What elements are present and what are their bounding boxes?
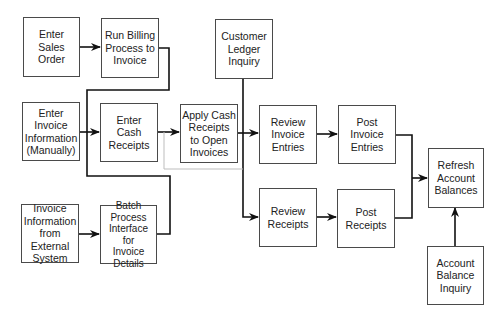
node-enter-sales-order: Enter Sales Order [23, 17, 80, 77]
flow-diagram: Enter Sales Order Run Billing Process to… [0, 0, 504, 317]
node-label: Enter Invoice Information (Manually) [25, 107, 78, 157]
node-customer-ledger-inquiry: Customer Ledger Inquiry [215, 19, 273, 79]
node-batch-process-interface: Batch Process Interface for Invoice Deta… [100, 205, 157, 264]
node-review-invoice-entries: Review Invoice Entries [259, 105, 317, 164]
node-label: Batch Process Interface for Invoice Deta… [102, 200, 155, 269]
node-run-billing: Run Billing Process to Invoice [101, 18, 159, 78]
node-post-invoice-entries: Post Invoice Entries [338, 105, 396, 164]
node-enter-invoice-manual: Enter Invoice Information (Manually) [22, 102, 80, 161]
node-label: Review Invoice Entries [271, 116, 305, 154]
node-label: Run Billing Process to Invoice [105, 29, 155, 67]
node-label: Post Receipts [346, 206, 387, 231]
node-label: Enter Cash Receipts [109, 114, 150, 152]
node-label: Invoice Information from External System [24, 202, 77, 265]
ledger-connector [243, 78, 258, 217]
node-refresh-account-balances: Refresh Account Balances [428, 148, 484, 208]
post-invoice-connector [394, 135, 412, 218]
node-account-balance-inquiry: Account Balance Inquiry [427, 246, 484, 305]
node-invoice-info-external: Invoice Information from External System [21, 204, 79, 263]
node-review-receipts: Review Receipts [259, 188, 317, 247]
node-label: Customer Ledger Inquiry [221, 30, 267, 68]
node-label: Apply Cash Receipts to Open Invoices [182, 109, 236, 159]
node-post-receipts: Post Receipts [337, 189, 395, 248]
node-label: Refresh Account Balances [434, 159, 477, 197]
node-label: Account Balance Inquiry [437, 257, 475, 295]
node-label: Enter Sales Order [38, 28, 65, 66]
node-label: Review Receipts [268, 205, 309, 230]
node-enter-cash-receipts: Enter Cash Receipts [100, 103, 158, 162]
node-apply-cash-receipts: Apply Cash Receipts to Open Invoices [180, 104, 238, 163]
node-label: Post Invoice Entries [350, 116, 383, 154]
